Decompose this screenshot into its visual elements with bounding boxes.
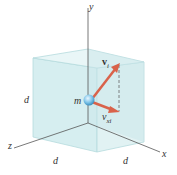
component-label: vxi [102, 112, 112, 125]
y-axis-label: y [89, 2, 93, 12]
dimension-bottom-right: d [123, 156, 128, 166]
cube-diagram: y z x d d d m vi vxi [0, 0, 177, 175]
dimension-left: d [24, 95, 29, 105]
x-axis-label: x [162, 149, 166, 159]
dimension-bottom-left: d [53, 156, 58, 166]
diagram-graphic [0, 0, 177, 175]
mass-sphere [84, 95, 95, 106]
z-axis-label: z [8, 141, 12, 151]
velocity-label: vi [102, 57, 109, 70]
mass-label: m [74, 96, 81, 106]
velocity-subscript: i [107, 62, 109, 70]
component-subscript: xi [106, 117, 111, 125]
